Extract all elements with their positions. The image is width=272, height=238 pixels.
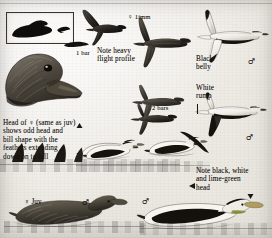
- annotation-one-bar: 1 bar: [76, 49, 90, 57]
- head-portrait-art: [0, 40, 84, 120]
- male-symbol-mid-right: ♂: [246, 134, 253, 142]
- annotation-female-1imm: ♀ 1imm: [128, 13, 151, 21]
- swim-bw-mid-art: [82, 136, 138, 164]
- plate-top-rule: [0, 3, 272, 4]
- pointer-up-icon: [76, 115, 83, 133]
- water-lower: [4, 221, 144, 233]
- pointer-tick-icon: [196, 100, 199, 118]
- male-symbol-top-right: ♂: [248, 58, 255, 66]
- water-right: [140, 223, 272, 235]
- annotation-note-heavy: Note heavy flight profile: [97, 47, 135, 64]
- field-guide-plate: 1 bar Note heavy flight profile ♀ 1imm B…: [0, 0, 272, 238]
- swim-bw-mid: [82, 136, 138, 164]
- pointer-left-icon: [188, 176, 196, 194]
- annotation-white-rump: White rump: [196, 84, 214, 101]
- annotation-female-juv: ♀ Juv: [24, 198, 42, 206]
- annotation-black-belly: Black belly: [196, 55, 213, 72]
- male-symbol-bottom-mid: ♂: [142, 198, 149, 206]
- annotation-head-of-female: Head of ♀ (same as juv) shows odd head a…: [3, 119, 76, 161]
- annotation-note-black-white: Note black, white and lime-green head: [196, 167, 249, 192]
- annotation-two-bars: 2 bars: [152, 104, 169, 112]
- head-portrait: [0, 40, 84, 120]
- flight-wing-fragment-art: [176, 128, 214, 154]
- male-symbol-bottom-left: ♂: [82, 199, 89, 207]
- flight-wing-fragment: [176, 128, 214, 154]
